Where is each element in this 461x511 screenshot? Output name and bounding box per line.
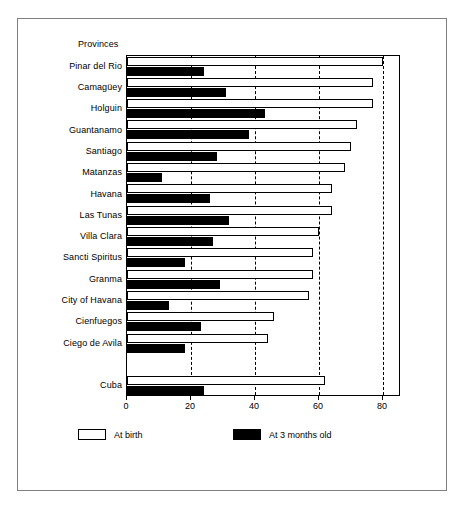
bar-group — [127, 333, 399, 354]
category-label: Holguin — [10, 103, 122, 113]
axis-tick-label: 40 — [249, 401, 259, 411]
bar-at-birth — [127, 334, 268, 343]
category-label: Villa Clara — [10, 231, 122, 241]
bar-at-birth — [127, 206, 332, 215]
bar-group — [127, 205, 399, 226]
bar-group — [127, 163, 399, 184]
bar-at-birth — [127, 227, 319, 236]
axis-tick-label: 60 — [313, 401, 323, 411]
bar-at-birth — [127, 184, 332, 193]
bar-at-3-months-old — [127, 301, 169, 310]
bar-group — [127, 376, 399, 397]
bar-group — [127, 99, 399, 120]
black-square-icon — [233, 429, 261, 440]
category-label: Granma — [10, 274, 122, 284]
bar-group — [127, 141, 399, 162]
legend-item: At 3 months old — [233, 429, 332, 440]
bar-group — [127, 248, 399, 269]
plot-area — [126, 55, 400, 396]
bar-group — [127, 227, 399, 248]
bar-group — [127, 56, 399, 77]
legend-label: At birth — [114, 430, 143, 440]
bar-at-birth — [127, 270, 313, 279]
category-label: Havana — [10, 189, 122, 199]
figure-frame: Provinces Pinar del RioCamagüeyHolguinGu… — [17, 18, 447, 491]
axis-header-label: Provinces — [78, 39, 118, 49]
bar-group — [127, 312, 399, 333]
legend-label: At 3 months old — [269, 430, 332, 440]
category-label: City of Havana — [10, 295, 122, 305]
value-axis: 020406080 — [126, 396, 400, 418]
bar-at-3-months-old — [127, 386, 204, 395]
chart-legend: At birthAt 3 months old — [18, 429, 446, 469]
axis-tick — [190, 396, 191, 400]
bar-at-birth — [127, 142, 351, 151]
bar-group — [127, 354, 399, 375]
bar-at-3-months-old — [127, 67, 204, 76]
bar-at-3-months-old — [127, 237, 213, 246]
bar-at-birth — [127, 248, 313, 257]
bar-group — [127, 120, 399, 141]
bar-at-3-months-old — [127, 130, 249, 139]
bar-group — [127, 77, 399, 98]
bar-at-birth — [127, 120, 357, 129]
axis-tick — [126, 396, 127, 400]
bar-at-3-months-old — [127, 109, 265, 118]
bar-at-birth — [127, 291, 309, 300]
plot-inner — [127, 56, 399, 395]
category-label: Guantanamo — [10, 125, 122, 135]
category-label: Ciego de Avila — [10, 338, 122, 348]
category-label: Matanzas — [10, 167, 122, 177]
category-label: Camagüey — [10, 82, 122, 92]
bar-at-birth — [127, 312, 274, 321]
bar-at-birth — [127, 78, 373, 87]
category-label: Las Tunas — [10, 210, 122, 220]
axis-tick — [382, 396, 383, 400]
bar-group — [127, 184, 399, 205]
bar-at-3-months-old — [127, 216, 229, 225]
category-label: Sancti Spiritus — [10, 252, 122, 262]
white-square-icon — [78, 429, 106, 440]
bar-at-3-months-old — [127, 280, 220, 289]
axis-tick — [318, 396, 319, 400]
bar-at-3-months-old — [127, 322, 201, 331]
bar-at-3-months-old — [127, 173, 162, 182]
category-label: Cienfuegos — [10, 316, 122, 326]
bar-at-3-months-old — [127, 344, 185, 353]
category-label: Pinar del Rio — [10, 61, 122, 71]
bar-at-birth — [127, 163, 345, 172]
bar-at-3-months-old — [127, 152, 217, 161]
bar-at-birth — [127, 57, 383, 66]
bar-group — [127, 290, 399, 311]
axis-tick — [254, 396, 255, 400]
category-label: Cuba — [10, 380, 122, 390]
bar-group — [127, 269, 399, 290]
legend-item: At birth — [78, 429, 143, 440]
axis-tick-label: 0 — [123, 401, 128, 411]
bar-at-3-months-old — [127, 194, 210, 203]
bar-at-birth — [127, 376, 325, 385]
category-label: Santiago — [10, 146, 122, 156]
axis-tick-label: 20 — [185, 401, 195, 411]
bar-at-3-months-old — [127, 88, 226, 97]
category-axis-labels: Pinar del RioCamagüeyHolguinGuantanamoSa… — [18, 55, 122, 396]
bar-at-birth — [127, 99, 373, 108]
axis-tick-label: 80 — [377, 401, 387, 411]
bar-at-3-months-old — [127, 258, 185, 267]
